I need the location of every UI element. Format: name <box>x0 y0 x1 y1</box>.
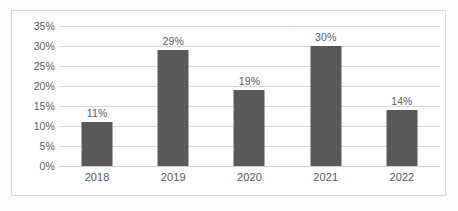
bar <box>82 122 113 166</box>
bar-group: 30% <box>288 26 364 166</box>
bar-group: 29% <box>135 26 211 166</box>
x-axis-tick-label: 2018 <box>59 171 135 183</box>
x-axis-tick-label: 2021 <box>288 171 364 183</box>
y-axis-tick-label: 20% <box>21 80 55 92</box>
chart-plot-frame: 35%30%25%20%15%10%5%0% 11%29%19%30%14% 2… <box>11 10 446 196</box>
y-axis-tick-label: 25% <box>21 60 55 72</box>
y-axis-tick-label: 30% <box>21 40 55 52</box>
x-axis-tick-label: 2019 <box>135 171 211 183</box>
bar-value-label: 11% <box>87 107 108 119</box>
y-axis-tick-label: 10% <box>21 120 55 132</box>
gridline <box>59 166 440 167</box>
bar-value-label: 29% <box>163 35 184 47</box>
y-axis-tick-label: 15% <box>21 100 55 112</box>
bar-value-label: 30% <box>315 31 336 43</box>
bar-value-label: 14% <box>391 95 412 107</box>
bar <box>310 46 341 166</box>
x-axis-tick-label: 2020 <box>211 171 287 183</box>
bar-series-layer: 11%29%19%30%14% <box>59 26 440 166</box>
bar-group: 11% <box>59 26 135 166</box>
x-axis-tick-labels: 20182019202020212022 <box>59 171 440 193</box>
y-axis-tick-label: 5% <box>21 140 55 152</box>
bar <box>158 50 189 166</box>
bar <box>234 90 265 166</box>
bar-chart-figure: 35%30%25%20%15%10%5%0% 11%29%19%30%14% 2… <box>0 0 458 211</box>
x-axis-tick-label: 2022 <box>364 171 440 183</box>
bar-value-label: 19% <box>239 75 260 87</box>
bar-group: 14% <box>364 26 440 166</box>
y-axis-tick-label: 0% <box>21 160 55 172</box>
bar-group: 19% <box>211 26 287 166</box>
y-axis-tick-labels: 35%30%25%20%15%10%5%0% <box>19 26 55 166</box>
bar <box>386 110 417 166</box>
y-axis-tick-label: 35% <box>21 20 55 32</box>
